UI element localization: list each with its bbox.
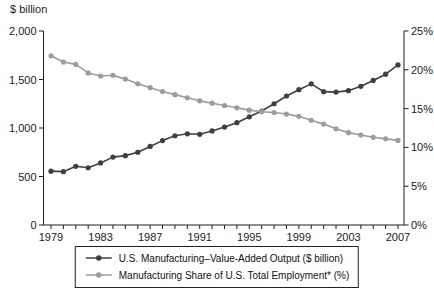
legend-marker-share-icon (85, 270, 113, 280)
legend-label-share: Manufacturing Share of U.S. Total Employ… (119, 270, 349, 281)
svg-text:25%: 25% (411, 25, 433, 37)
line-chart: 05001,0001,5002,0000%5%10%15%20%25%19791… (0, 0, 434, 245)
svg-text:1995: 1995 (237, 231, 261, 243)
svg-text:2007: 2007 (386, 231, 410, 243)
svg-text:1979: 1979 (39, 231, 63, 243)
legend: U.S. Manufacturing–Value-Added Output ($… (75, 246, 359, 288)
legend-item-share: Manufacturing Share of U.S. Total Employ… (85, 267, 349, 283)
svg-text:1987: 1987 (138, 231, 162, 243)
svg-text:500: 500 (18, 171, 36, 183)
svg-text:0: 0 (30, 219, 36, 231)
legend-label-output: U.S. Manufacturing–Value-Added Output ($… (119, 253, 343, 264)
svg-text:20%: 20% (411, 64, 433, 76)
svg-text:1,500: 1,500 (9, 74, 37, 86)
svg-text:0%: 0% (411, 219, 427, 231)
svg-text:5%: 5% (411, 180, 427, 192)
svg-text:1,000: 1,000 (9, 122, 37, 134)
svg-text:15%: 15% (411, 103, 433, 115)
svg-text:1999: 1999 (287, 231, 311, 243)
svg-text:2003: 2003 (336, 231, 360, 243)
left-axis-ticks: 05001,0001,5002,000 (9, 25, 44, 231)
svg-text:2,000: 2,000 (9, 25, 37, 37)
x-axis-ticks: 19791983198719911995199920032007 (39, 225, 410, 243)
svg-text:1991: 1991 (187, 231, 211, 243)
legend-item-output: U.S. Manufacturing–Value-Added Output ($… (85, 250, 349, 266)
series-0 (48, 62, 400, 174)
right-axis-ticks: 0%5%10%15%20%25% (404, 25, 433, 231)
svg-text:1983: 1983 (88, 231, 112, 243)
svg-text:10%: 10% (411, 141, 433, 153)
legend-marker-output-icon (85, 253, 113, 263)
